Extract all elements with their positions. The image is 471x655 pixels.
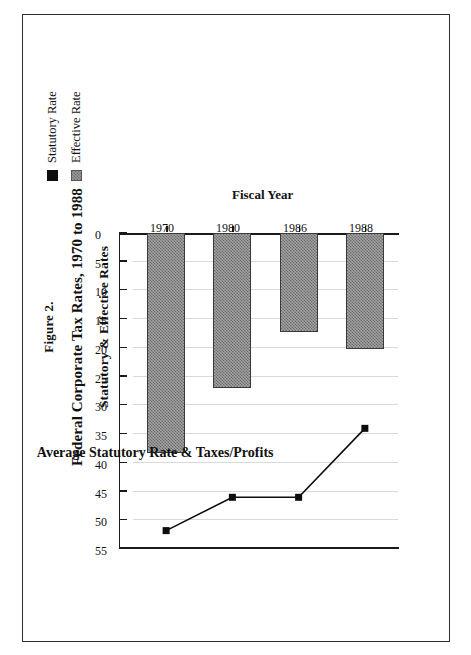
category-axis-tick-label: 1986 (283, 221, 307, 236)
scanned-page: Figure 2. Federal Corporate Tax Rates, 1… (0, 0, 471, 655)
chart-legend: Statutory Rate Effective Rate (45, 31, 93, 181)
value-axis-tick (119, 462, 127, 463)
square-marker-icon (47, 170, 58, 181)
data-point-marker (361, 425, 368, 432)
value-axis-tick (119, 318, 127, 319)
category-axis-tick-label: 1980 (216, 221, 240, 236)
value-axis-tick (119, 433, 127, 434)
data-point-marker (163, 527, 170, 534)
category-axis-tick-label: 1970 (150, 221, 174, 236)
value-axis-tick (119, 375, 127, 376)
plot-area: 5550454035302520151050 1970198019861988 (133, 233, 398, 549)
value-axis-tick (119, 289, 127, 290)
value-axis-tick (119, 347, 127, 348)
category-axis-tick-label: 1988 (349, 221, 373, 236)
value-axis-tick-label: 35 (95, 429, 107, 444)
value-axis-tick-label: 10 (95, 285, 107, 300)
value-axis-tick-label: 0 (95, 228, 101, 243)
line-series-statutory-rate (133, 233, 398, 549)
legend-item-statutory-rate: Statutory Rate (45, 31, 60, 181)
legend-label: Statutory Rate (45, 91, 60, 163)
value-axis-tick-label: 20 (95, 343, 107, 358)
data-point-marker (229, 494, 236, 501)
legend-label: Effective Rate (69, 91, 84, 163)
data-point-marker (295, 494, 302, 501)
value-axis-tick (119, 548, 127, 549)
value-axis-tick (119, 232, 127, 233)
value-axis-tick-label: 55 (95, 544, 107, 559)
value-axis-tick-label: 15 (95, 314, 107, 329)
category-axis-title: Fiscal Year (232, 187, 293, 203)
value-axis-tick-label: 30 (95, 400, 107, 415)
value-axis-tick-label: 5 (95, 257, 101, 272)
plot-top-border (119, 233, 120, 549)
figure-rotated-container: Figure 2. Federal Corporate Tax Rates, 1… (23, 13, 451, 641)
value-axis-title: Average Statutory Rate & Taxes/Profits (37, 445, 274, 461)
hatched-swatch-icon (71, 170, 82, 181)
value-axis-tick (119, 519, 127, 520)
value-axis-tick-label: 25 (95, 372, 107, 387)
value-axis-tick (119, 490, 127, 491)
legend-item-effective-rate: Effective Rate (69, 31, 84, 181)
value-axis-tick-label: 50 (95, 515, 107, 530)
value-axis-tick-label: 45 (95, 487, 107, 502)
value-axis-tick (119, 260, 127, 261)
value-axis-tick (119, 404, 127, 405)
